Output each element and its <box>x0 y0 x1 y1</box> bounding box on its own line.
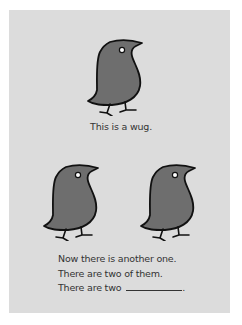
wug-eye <box>172 172 177 177</box>
prompt-line-1: Now there is another one. <box>58 252 185 267</box>
prompt-line-2: There are two of them. <box>58 267 185 282</box>
answer-blank <box>126 281 182 291</box>
wug-eye <box>119 47 124 52</box>
wug-figure-top <box>86 38 148 116</box>
wug-eye <box>75 172 80 177</box>
wug-figure-bottom-right <box>139 163 201 241</box>
prompt-line-3: There are two . <box>58 281 185 296</box>
prompt-line-3-text: There are two <box>58 282 121 293</box>
wug-figure-bottom-left <box>42 163 104 241</box>
prompt-text: Now there is another one. There are two … <box>58 252 185 296</box>
blank-suffix: . <box>182 282 185 293</box>
caption-this-is-a-wug: This is a wug. <box>0 121 242 132</box>
